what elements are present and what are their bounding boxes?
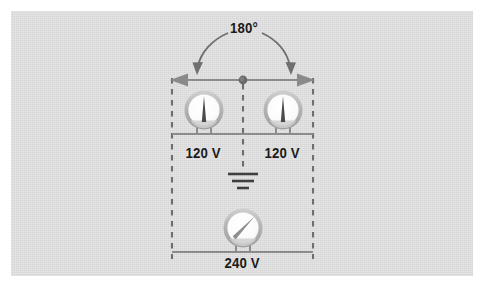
left-meter[interactable] (185, 91, 224, 135)
bus-center-node (239, 76, 248, 85)
right-voltage-label: 120 V (264, 145, 299, 160)
left-voltage-label: 120 V (185, 145, 220, 160)
earth-ground-icon (228, 174, 258, 188)
phase-angle-label: 180° (230, 20, 258, 35)
split-phase-voltage-diagram (0, 0, 485, 287)
phase-angle-arc-left (193, 33, 229, 75)
phase-angle-arc-right (262, 33, 296, 75)
diagram-canvas: 180° 120 V 120 V 240 V (0, 0, 485, 287)
right-meter[interactable] (264, 91, 303, 135)
total-voltage-label: 240 V (224, 255, 259, 270)
bottom-meter[interactable] (224, 209, 263, 253)
